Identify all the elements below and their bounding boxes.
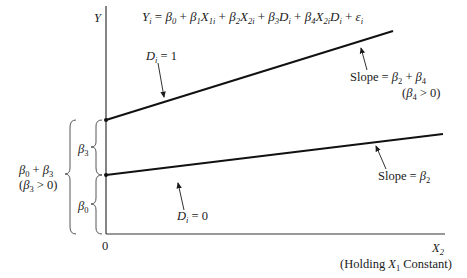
x-axis-label: X2 xyxy=(432,242,444,255)
intercept-point-d0 xyxy=(104,173,108,177)
diagram-canvas xyxy=(0,0,467,278)
intercept-point-d1 xyxy=(104,118,108,122)
arrow-slope-d0 xyxy=(376,146,386,169)
bracket-label-outer: β0 + β3 xyxy=(19,164,53,177)
label-d0: Di = 0 xyxy=(177,210,208,223)
arrow-d0-label xyxy=(178,183,184,210)
arrow-d1-label xyxy=(158,63,164,97)
regression-equation: Yi = β0 + β1X1i + β2X2i + β3Di + β4X2iDi… xyxy=(142,10,363,23)
slope-condition-d1: (β4 > 0) xyxy=(402,87,440,100)
brace-beta0 xyxy=(91,175,102,234)
brace-beta0-plus-beta3 xyxy=(65,120,76,234)
slope-label-d1: Slope = β2 + β4 xyxy=(350,71,426,84)
bracket-label-beta3: β3 xyxy=(78,143,88,156)
arrow-slope-d1 xyxy=(361,48,367,70)
x-axis-note: (Holding X1 Constant) xyxy=(340,258,452,271)
origin-label: 0 xyxy=(102,240,108,253)
slope-label-d0: Slope = β2 xyxy=(378,170,430,183)
bracket-condition-outer: (β3 > 0) xyxy=(19,179,57,192)
bracket-label-beta0: β0 xyxy=(78,200,88,213)
y-axis-label: Y xyxy=(94,12,101,25)
brace-beta3 xyxy=(91,120,102,175)
label-d1: Di = 1 xyxy=(146,50,177,63)
